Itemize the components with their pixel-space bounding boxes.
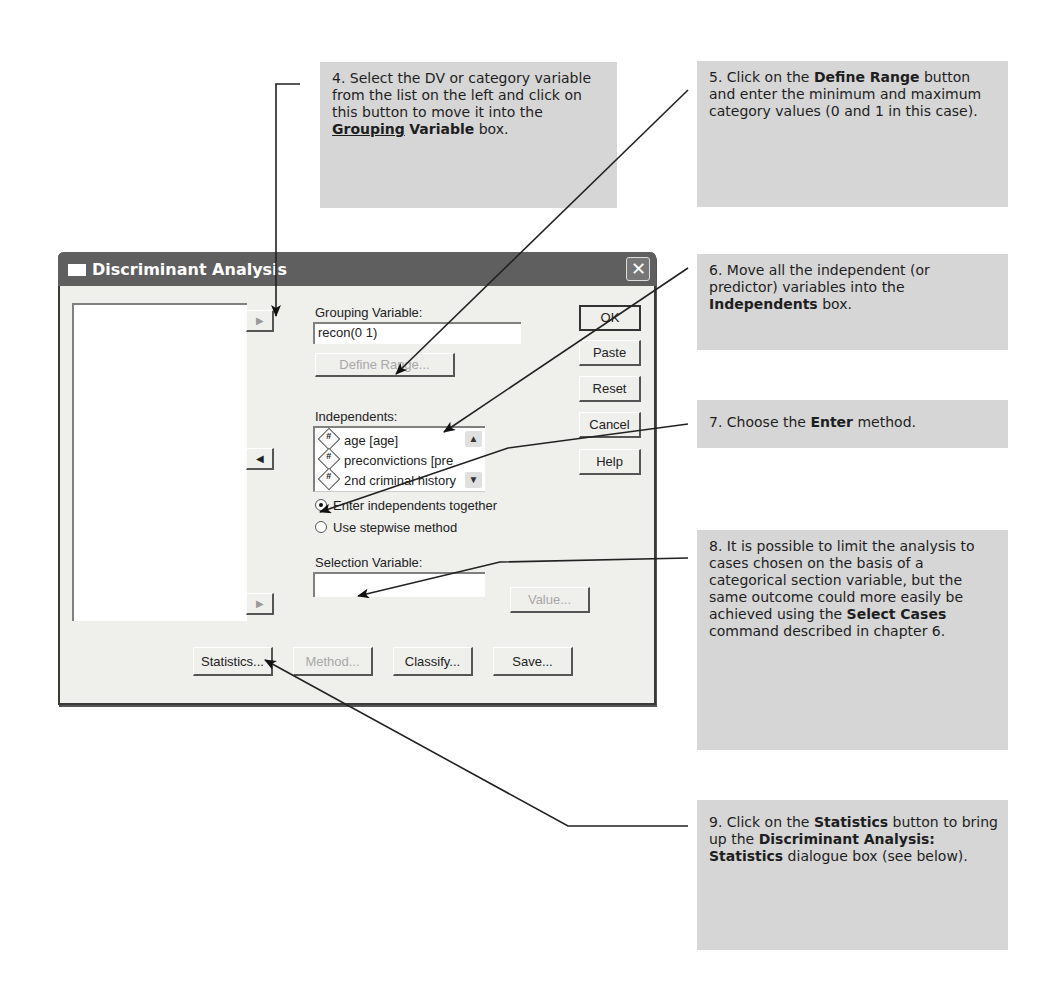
callout-text: 4. Select the DV or category variable fr… <box>332 70 591 120</box>
callout-bold: Define Range <box>814 69 920 85</box>
radio-selected-icon <box>315 499 327 511</box>
callout-step-7: 7. Choose the Enter method. <box>697 400 1008 448</box>
radio-enter-together[interactable]: Enter independents together <box>315 498 497 513</box>
callout-step-4: 4. Select the DV or category variable fr… <box>320 62 617 208</box>
source-variable-list[interactable] <box>72 303 247 621</box>
numeric-variable-icon: # <box>318 468 341 491</box>
radio-unselected-icon <box>315 521 327 533</box>
radio-stepwise[interactable]: Use stepwise method <box>315 520 457 535</box>
callout-step-9: 9. Click on the Statistics button to bri… <box>697 800 1008 950</box>
callout-text: command described in chapter 6. <box>709 623 945 639</box>
window-icon <box>68 264 86 276</box>
define-range-button[interactable]: Define Range... <box>315 353 455 377</box>
callout-bold: Independents <box>709 296 818 312</box>
selection-variable-label: Selection Variable: <box>315 555 422 570</box>
help-button[interactable]: Help <box>579 449 641 475</box>
list-item-label: 2nd criminal history <box>344 473 456 488</box>
callout-bold: Enter <box>810 414 853 430</box>
callout-text: box. <box>474 121 508 137</box>
left-arrow-icon: ◀ <box>256 453 264 464</box>
list-item[interactable]: #age [age] <box>321 431 398 448</box>
discriminant-analysis-dialog: Discriminant Analysis ✕ ▶ Grouping Varia… <box>58 252 656 705</box>
independents-label: Independents: <box>315 409 397 424</box>
callout-text: method. <box>853 414 916 430</box>
scroll-up-button[interactable]: ▲ <box>465 431 482 447</box>
right-arrow-icon: ▶ <box>256 315 264 326</box>
callout-bold: Grouping <box>332 121 405 137</box>
callout-bold: Variable <box>409 121 474 137</box>
list-item-label: age [age] <box>344 433 398 448</box>
list-item[interactable]: #2nd criminal history <box>321 471 456 488</box>
classify-button[interactable]: Classify... <box>393 647 473 676</box>
independents-list[interactable]: #age [age] #preconvictions [pre #2nd cri… <box>313 426 485 492</box>
ok-button[interactable]: OK <box>579 305 641 331</box>
value-button[interactable]: Value... <box>510 587 590 613</box>
move-to-grouping-button[interactable]: ▶ <box>246 310 274 332</box>
reset-button[interactable]: Reset <box>579 376 641 402</box>
close-button[interactable]: ✕ <box>626 257 650 281</box>
callout-bold: Select Cases <box>847 606 947 622</box>
callout-text: 9. Click on the <box>709 814 814 830</box>
scroll-down-button[interactable]: ▼ <box>465 472 482 488</box>
right-arrow-icon: ▶ <box>256 598 264 609</box>
callout-text: box. <box>818 296 852 312</box>
grouping-variable-label: Grouping Variable: <box>315 305 422 320</box>
callout-text: dialogue box (see below). <box>783 848 968 864</box>
selection-variable-field[interactable] <box>313 572 485 597</box>
radio-label: Enter independents together <box>333 498 497 513</box>
callout-bold: Statistics <box>814 814 888 830</box>
callout-step-8: 8. It is possible to limit the analysis … <box>697 530 1008 750</box>
callout-text: 5. Click on the <box>709 69 814 85</box>
dialog-title: Discriminant Analysis <box>92 260 287 279</box>
statistics-button[interactable]: Statistics... <box>193 647 273 676</box>
cancel-button[interactable]: Cancel <box>579 412 641 438</box>
grouping-variable-field[interactable]: recon(0 1) <box>313 322 521 344</box>
move-to-selection-button[interactable]: ▶ <box>246 593 274 615</box>
title-bar[interactable]: Discriminant Analysis ✕ <box>58 252 656 286</box>
callout-text: 7. Choose the <box>709 414 810 430</box>
save-button[interactable]: Save... <box>493 647 573 676</box>
list-item[interactable]: #preconvictions [pre <box>321 451 453 468</box>
radio-label: Use stepwise method <box>333 520 457 535</box>
callout-step-5: 5. Click on the Define Range button and … <box>697 61 1008 207</box>
paste-button[interactable]: Paste <box>579 340 641 366</box>
method-button[interactable]: Method... <box>293 647 373 676</box>
list-item-label: preconvictions [pre <box>344 453 453 468</box>
callout-step-6: 6. Move all the independent (or predicto… <box>697 254 1008 350</box>
move-from-independents-button[interactable]: ◀ <box>246 448 274 470</box>
callout-text: 6. Move all the independent (or predicto… <box>709 262 930 295</box>
